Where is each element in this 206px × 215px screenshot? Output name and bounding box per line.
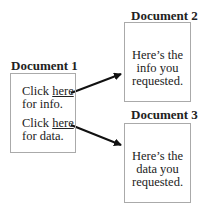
- document-1-line-2: for info.: [22, 98, 63, 111]
- here-link-info[interactable]: here: [52, 84, 74, 98]
- document-2-line-3: requested.: [124, 75, 191, 88]
- here-link-data[interactable]: here: [52, 116, 74, 130]
- document-3-line-3: requested.: [124, 176, 191, 189]
- arrow-to-document-3: [71, 125, 121, 145]
- document-3-title: Document 3: [131, 107, 198, 123]
- hyperlink-diagram: Document 1 Click here for info. Click he…: [0, 0, 206, 215]
- arrow-to-document-2: [71, 74, 121, 93]
- document-1-title: Document 1: [11, 58, 78, 74]
- document-1-line-4: for data.: [22, 130, 64, 143]
